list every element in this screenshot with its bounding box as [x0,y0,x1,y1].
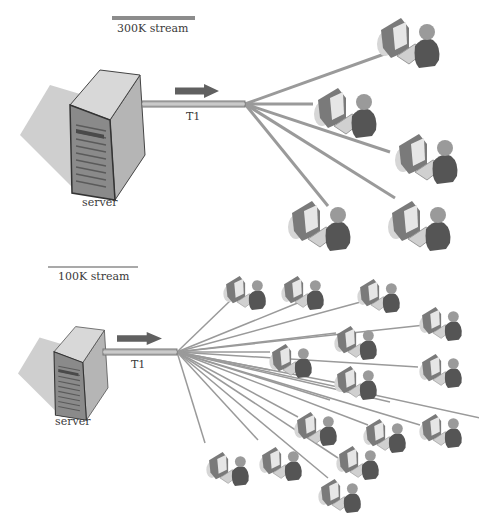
person-body [295,358,312,378]
top-stream-label: 300K stream [117,22,189,35]
person-body [389,433,406,453]
client-computer-icon [388,201,450,251]
top-server-label: server [82,196,117,209]
client-computer-icon [288,201,350,251]
client-computer-icon [419,414,461,448]
person-body [360,380,377,400]
person-head [437,140,453,156]
person-body [383,293,400,313]
server-icon [20,70,145,200]
person-head [288,451,299,462]
person-body [415,39,440,68]
top-link-label: T1 [186,110,200,123]
client-computer-icon [294,412,336,446]
person-head [347,483,358,494]
person-body [445,428,462,448]
bottom-server-label: server [55,415,90,428]
person-head [235,456,246,467]
client-computer-icon [334,326,376,360]
client-computer-icon [259,447,301,481]
person-body [445,321,462,341]
connection-line [177,352,205,443]
person-head [363,370,374,381]
client-computer-icon [223,276,265,310]
person-body [326,222,351,251]
person-body [360,340,377,360]
client-computer-icon [206,452,248,486]
person-body [362,460,379,480]
direction-arrow-icon [175,84,219,98]
person-head [310,280,321,291]
person-body [352,109,377,138]
section-bottom [18,267,479,513]
person-head [386,283,397,294]
person-head [330,207,346,223]
person-body [320,426,337,446]
client-computer-icon [357,279,399,313]
person-head [419,24,435,40]
client-computer-icon [318,479,360,513]
person-head [392,423,403,434]
person-body [285,461,302,481]
section-top [20,18,457,251]
person-body [344,493,361,513]
person-body [433,155,458,184]
person-head [363,330,374,341]
person-body [426,222,451,251]
person-head [323,416,334,427]
person-body [232,466,249,486]
client-computer-icon [336,446,378,480]
server-icon [18,327,108,421]
client-computer-icon [419,354,461,388]
person-head [356,94,372,110]
person-head [252,280,263,291]
person-body [307,290,324,310]
client-computer-icon [419,307,461,341]
direction-arrow-icon [117,332,162,345]
person-head [298,348,309,359]
person-body [249,290,266,310]
bottom-link-label: T1 [131,358,145,371]
client-computer-icon [377,18,439,68]
person-head [448,418,459,429]
client-computer-icon [363,419,405,453]
bottom-stream-label: 100K stream [58,270,130,283]
person-head [430,207,446,223]
streaming-diagram [0,0,479,527]
client-computer-icon [395,134,457,184]
person-head [448,311,459,322]
person-body [445,368,462,388]
client-computer-icon [281,276,323,310]
client-computer-icon [334,366,376,400]
person-head [365,450,376,461]
person-head [448,358,459,369]
